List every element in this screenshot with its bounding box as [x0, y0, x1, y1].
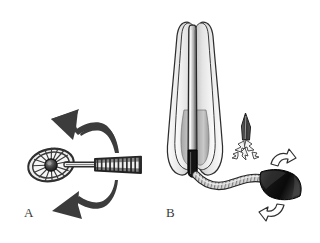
central-probe-tube — [188, 25, 197, 177]
illustration-svg — [0, 0, 320, 243]
figure-canvas: A B — [0, 0, 320, 243]
panel-a-label: A — [24, 206, 33, 219]
coiled-sheath — [95, 157, 141, 173]
brush-shaft — [64, 162, 98, 167]
background — [0, 0, 320, 243]
panel-b-label: B — [166, 206, 175, 219]
brush-hub — [45, 159, 57, 171]
